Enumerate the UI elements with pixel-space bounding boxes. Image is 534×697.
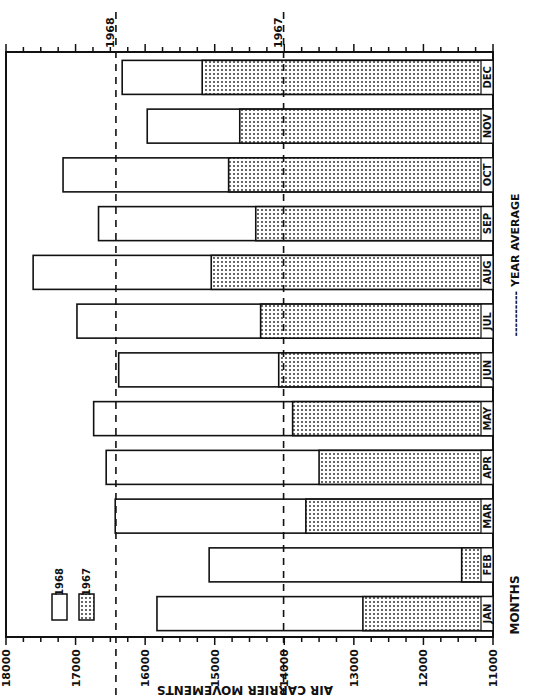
tick-label: 18000	[0, 649, 13, 688]
bar-1967	[202, 60, 493, 94]
legend-label-1967: 1967	[81, 568, 92, 596]
month-label: JUL	[482, 311, 493, 331]
bar-1967	[306, 499, 493, 533]
bar-1967	[240, 109, 493, 143]
legend: 19681967	[52, 568, 94, 620]
bar-group-jun: JUN	[119, 353, 493, 387]
tick-label: 16000	[139, 649, 152, 688]
year-average-label: 1967	[272, 17, 285, 48]
bar-group-nov: NOV	[147, 109, 493, 143]
bar-group-dec: DEC	[122, 60, 493, 94]
y-axis-label: AIR CARRIER MOVEMENTS	[157, 683, 333, 697]
tick-label: 11000	[487, 649, 500, 688]
month-label: JUN	[482, 360, 493, 381]
month-label: FEB	[482, 554, 493, 575]
bar-group-oct: OCT	[63, 158, 493, 192]
month-label: MAR	[482, 503, 493, 529]
bar-group-sep: SEP	[99, 207, 493, 241]
legend-swatch-1967	[79, 594, 94, 620]
bar-chart: 1100012000130001400015000160001700018000…	[0, 0, 534, 697]
month-label: MAY	[482, 406, 493, 431]
bar-1967	[211, 255, 493, 289]
month-label: OCT	[482, 163, 493, 186]
year-average-label: 1968	[104, 17, 117, 48]
month-label: DEC	[482, 66, 493, 88]
bar-group-aug: AUG	[33, 255, 493, 289]
bar-1967	[319, 450, 493, 484]
bar-group-mar: MAR	[115, 499, 493, 533]
month-label: AUG	[482, 260, 493, 284]
year-average-legend-note: ---------- YEAR AVERAGE	[509, 193, 522, 336]
tick-label: 12000	[417, 649, 430, 688]
x-axis-label: MONTHS	[508, 575, 522, 634]
bar-1967	[293, 402, 493, 436]
bar-group-jan: JAN	[157, 597, 493, 631]
month-label: SEP	[482, 213, 493, 234]
bar-group-apr: APR	[106, 450, 493, 484]
legend-label-1968: 1968	[54, 568, 65, 596]
tick-label: 17000	[70, 649, 83, 688]
bar-group-feb: FEB	[209, 548, 493, 582]
tick-label: 15000	[209, 649, 222, 688]
bar-group-may: MAY	[94, 402, 493, 436]
bar-1967	[256, 207, 493, 241]
month-label: NOV	[482, 114, 493, 139]
tick-label: 14000	[278, 649, 291, 688]
month-label: APR	[482, 456, 493, 479]
bar-1967	[363, 597, 493, 631]
legend-swatch-1968	[52, 594, 67, 620]
bar-1967	[261, 304, 493, 338]
tick-label: 13000	[348, 649, 361, 688]
month-label: JAN	[482, 604, 493, 625]
bar-group-jul: JUL	[77, 304, 493, 338]
bars: JANFEBMARAPRMAYJUNJULAUGSEPOCTNOVDEC	[33, 60, 493, 630]
bar-1968	[209, 548, 493, 582]
bar-1967	[229, 158, 493, 192]
bar-1967	[279, 353, 493, 387]
